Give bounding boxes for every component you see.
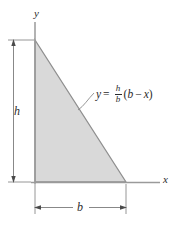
equation-leader-line bbox=[78, 93, 94, 110]
equation-lhs: y bbox=[96, 89, 101, 101]
equation-fraction: h b bbox=[115, 84, 122, 105]
y-axis-label: y bbox=[34, 8, 39, 19]
height-dimension-label: h bbox=[14, 105, 20, 117]
equation-minus-sign: − bbox=[133, 89, 144, 101]
triangle-figure: y x h b y = h b ( b − x ) bbox=[0, 0, 179, 230]
equation-fraction-numerator: h bbox=[115, 84, 122, 93]
equation-equals-sign: = bbox=[103, 89, 110, 101]
equation-close-paren: ) bbox=[149, 89, 153, 101]
figure-canvas bbox=[0, 0, 179, 230]
x-axis-label: x bbox=[163, 174, 168, 185]
curve-equation-label: y = h b ( b − x ) bbox=[96, 84, 153, 105]
base-dimension-label: b bbox=[77, 201, 83, 213]
equation-fraction-denominator: b bbox=[115, 95, 122, 104]
